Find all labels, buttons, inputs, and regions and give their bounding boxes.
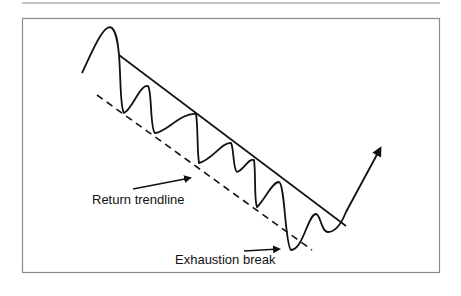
return-trendline-label: Return trendline xyxy=(92,192,185,207)
return-trendline-pointer-arrow xyxy=(133,178,190,189)
return-trendline-dashed xyxy=(97,95,312,250)
exhaustion-break-pointer-arrow xyxy=(244,249,279,251)
exhaustion-break-label: Exhaustion break xyxy=(175,252,275,267)
